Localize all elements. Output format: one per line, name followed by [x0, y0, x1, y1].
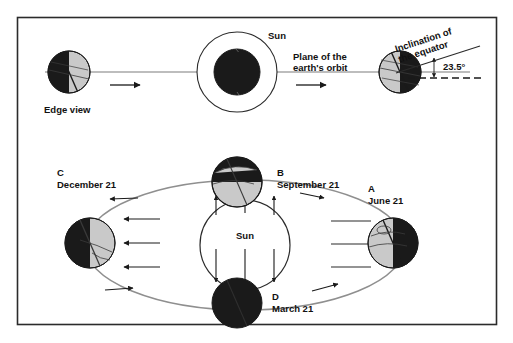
position-a-letter: A [368, 183, 375, 194]
position-d-date: March 21 [272, 303, 314, 314]
earth-position-d [212, 278, 262, 328]
sun-label-top: Sun [268, 30, 286, 41]
earth-position-a [368, 218, 418, 268]
edge-view-label: Edge view [44, 104, 91, 115]
earth-edge-left [48, 51, 90, 93]
position-c-letter: C [57, 167, 64, 178]
sun-top-view [197, 32, 277, 112]
position-b-date: September 21 [277, 179, 340, 190]
diagram-canvas: Sun Plane of the earth's orbit [0, 0, 513, 343]
sun-label-orbit: Sun [236, 230, 254, 241]
position-c-date: December 21 [57, 179, 117, 190]
plane-label-line2: earth's orbit [293, 62, 348, 73]
position-b-letter: B [277, 167, 284, 178]
earth-position-b [212, 157, 262, 207]
angle-label: 23.5° [443, 61, 465, 72]
earth-position-c [65, 218, 115, 268]
seasons-diagram-page: Sun Plane of the earth's orbit [0, 0, 513, 343]
plane-label-line1: Plane of the [293, 51, 347, 62]
sun-disk [214, 49, 260, 95]
position-d-letter: D [272, 291, 279, 302]
position-a-date: June 21 [368, 195, 404, 206]
